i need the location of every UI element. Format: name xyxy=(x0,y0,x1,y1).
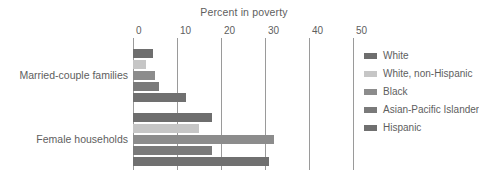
bar xyxy=(133,49,153,58)
legend-label: Hispanic xyxy=(383,123,421,133)
chart-legend: WhiteWhite, non-HispanicBlackAsian-Pacif… xyxy=(364,48,470,138)
x-tick-label-20: 20 xyxy=(221,25,235,36)
x-tick-label-50: 50 xyxy=(353,25,367,36)
legend-swatch-icon xyxy=(364,71,377,77)
x-tick-label-40: 40 xyxy=(309,25,323,36)
legend-item: Black xyxy=(364,84,470,100)
legend-label: White, non-Hispanic xyxy=(383,69,472,79)
x-tick-label-0: 0 xyxy=(133,25,142,36)
bar xyxy=(133,113,212,122)
bar xyxy=(133,157,269,166)
legend-swatch-icon xyxy=(364,53,377,59)
legend-item: Hispanic xyxy=(364,120,470,136)
legend-item: White, non-Hispanic xyxy=(364,66,470,82)
legend-item: Asian-Pacific Islander xyxy=(364,102,470,118)
bar xyxy=(133,93,186,102)
plot-area: 01020304050 xyxy=(133,38,353,170)
x-tick-label-10: 10 xyxy=(177,25,191,36)
gridline-50 xyxy=(353,38,354,170)
bars xyxy=(133,38,353,170)
legend-label: Asian-Pacific Islander xyxy=(383,105,479,115)
legend-swatch-icon xyxy=(364,107,377,113)
legend-label: White xyxy=(383,51,409,61)
category-label: Married-couple families xyxy=(0,69,128,81)
bar xyxy=(133,82,159,91)
bar xyxy=(133,71,155,80)
bar xyxy=(133,60,146,69)
x-tick-label-30: 30 xyxy=(265,25,279,36)
bar xyxy=(133,135,274,144)
legend-item: White xyxy=(364,48,470,64)
category-axis-labels: Married-couple familiesFemale households xyxy=(0,38,128,170)
legend-swatch-icon xyxy=(364,89,377,95)
chart-title: Percent in poverty xyxy=(0,6,470,18)
bar xyxy=(133,124,199,133)
bar xyxy=(133,146,212,155)
category-label: Female households xyxy=(0,133,128,145)
legend-swatch-icon xyxy=(364,125,377,131)
legend-label: Black xyxy=(383,87,407,97)
